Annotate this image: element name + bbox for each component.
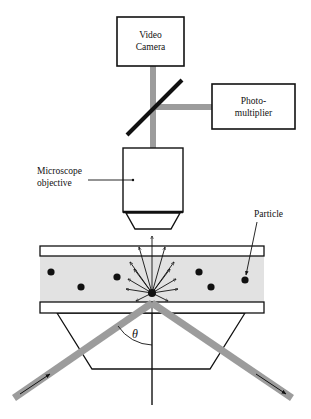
objective-label-line1: Microscope <box>37 166 82 176</box>
particle-label: Particle <box>254 209 283 219</box>
theta-label: θ <box>132 327 138 341</box>
pmt-label-line2: multiplier <box>235 108 273 118</box>
objective-label-line2: objective <box>37 178 72 188</box>
camera-label-line1: Video <box>139 30 162 40</box>
incident-arrow <box>20 374 50 394</box>
reflected-arrow <box>256 374 286 394</box>
photomultiplier: Photo- multiplier <box>212 84 295 129</box>
horizontal-light-path <box>156 104 212 110</box>
particle <box>47 268 54 275</box>
video-camera: Video Camera <box>117 17 184 66</box>
objective-leader-dot <box>132 179 134 181</box>
particle <box>77 283 84 290</box>
pmt-label-line1: Photo- <box>241 96 266 106</box>
prism <box>57 313 245 369</box>
camera-label-line2: Camera <box>136 42 166 52</box>
microscope-objective <box>123 148 183 229</box>
particle <box>195 268 202 275</box>
scattering-particle <box>148 289 156 297</box>
particle <box>207 283 214 290</box>
particle <box>241 276 248 283</box>
particle <box>113 273 120 280</box>
tirm-diagram: Video Camera Photo- multiplier Microscop… <box>0 0 311 419</box>
